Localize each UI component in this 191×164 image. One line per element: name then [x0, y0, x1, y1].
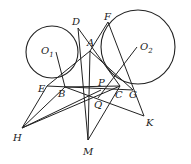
- segment-hc: [22, 86, 120, 128]
- geometry-diagram: DFAO1O2EBPQCGHMK: [0, 0, 191, 164]
- label-m: M: [83, 147, 93, 157]
- label-g: G: [129, 90, 137, 100]
- diagram-canvas: [0, 0, 191, 164]
- label-o2: O2: [140, 42, 153, 55]
- label-k: K: [146, 118, 153, 128]
- label-q: Q: [94, 100, 102, 110]
- circle-o2: [101, 10, 175, 84]
- label-h: H: [13, 133, 22, 143]
- label-e: E: [38, 84, 45, 94]
- segment-fk: [108, 22, 144, 116]
- label-b: B: [58, 89, 65, 99]
- label-c: C: [115, 90, 123, 100]
- label-d: D: [72, 17, 80, 27]
- label-a: A: [87, 38, 94, 48]
- label-p: P: [98, 78, 105, 88]
- label-o1: O1: [41, 46, 54, 59]
- label-f: F: [104, 12, 111, 22]
- segment-o1b: [56, 52, 65, 87]
